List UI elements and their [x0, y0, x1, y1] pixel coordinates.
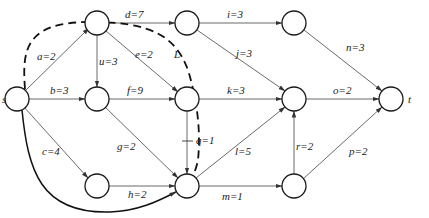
edge-label-h: h=2 [128, 188, 147, 200]
edge-label-d: d=7 [125, 8, 144, 20]
node-label-s: s [2, 93, 6, 105]
edge-label-q: q=1 [196, 134, 214, 146]
edge-label-c: c=4 [42, 145, 60, 157]
cut-line-L [24, 22, 199, 182]
edge-label-i: i=3 [227, 8, 243, 20]
node-t [379, 87, 403, 111]
edge-label-n: n=3 [346, 41, 365, 53]
cut-label-L: L [173, 48, 180, 60]
edge-label-g: g=2 [117, 140, 136, 152]
node-5 [175, 87, 199, 111]
node-3 [85, 174, 109, 198]
edge-j [197, 30, 285, 91]
edge-label-u: u=3 [99, 55, 118, 67]
network-diagram: s t a=2 b=3 c=4 d=7 e=2 f=9 g=2 h=2 i=3 … [0, 0, 429, 218]
node-2 [85, 87, 109, 111]
node-7 [282, 11, 306, 35]
edge-label-r: r=2 [296, 140, 314, 152]
edge-label-k: k=3 [227, 84, 245, 96]
edge-label-l: l=5 [235, 145, 251, 157]
edge-p [303, 107, 382, 179]
node-s [5, 87, 29, 111]
edge-label-m: m=1 [222, 190, 243, 202]
edge-label-a: a=2 [37, 50, 56, 62]
node-1 [85, 11, 109, 35]
node-label-t: t [408, 93, 412, 105]
edge-label-o: o=2 [333, 84, 352, 96]
edge-g [105, 107, 178, 178]
edges [22, 23, 382, 212]
edge-label-e: e=2 [135, 48, 153, 60]
node-8 [282, 87, 306, 111]
node-6 [175, 174, 199, 198]
edge-label-p: p=2 [348, 145, 368, 157]
nodes [5, 11, 403, 198]
edge-n [304, 30, 382, 91]
edge-label-j: j=3 [234, 47, 252, 59]
node-9 [282, 174, 306, 198]
node-4 [175, 11, 199, 35]
edge-label-b: b=3 [50, 84, 69, 96]
edge-label-f: f=9 [127, 84, 143, 96]
